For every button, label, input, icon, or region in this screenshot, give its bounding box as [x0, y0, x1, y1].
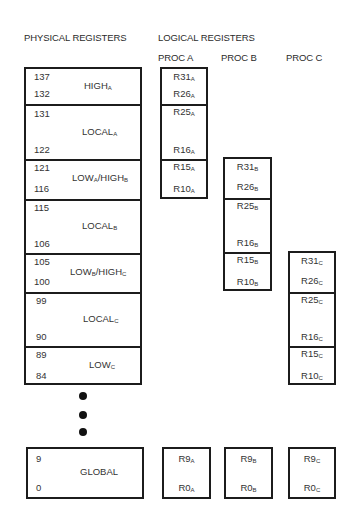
logical-register: R25B	[225, 200, 270, 211]
proc-a-logical-window: R31A R26A R25A R16A R15A R10A	[160, 67, 208, 199]
segment-label: LOWB/HIGHC	[70, 266, 126, 277]
proc-b-low-segment: R15B R10B	[225, 252, 270, 291]
register-number: 89	[36, 349, 47, 360]
segment-label: GLOBAL	[80, 466, 118, 477]
logical-register: R26B	[225, 181, 270, 192]
logical-register: R15A	[162, 161, 206, 172]
register-number: 84	[36, 370, 47, 381]
physical-segment-low-a-high-b: 121 116 LOWA/HIGHB	[26, 159, 140, 199]
physical-segment-local-b: 115 106 LOCALB	[26, 199, 140, 253]
proc-b-high-segment: R31B R26B	[225, 159, 270, 198]
proc-c-global-window: R9C R0C	[288, 447, 336, 499]
register-number: 90	[36, 331, 47, 342]
physical-segment-low-c: 89 84 LOWC	[26, 346, 140, 385]
register-number: 122	[34, 144, 50, 155]
logical-register: R16C	[290, 331, 334, 342]
physical-segment-local-a: 131 122 LOCALA	[26, 104, 140, 159]
logical-register: R31A	[162, 71, 206, 82]
register-number: 100	[34, 276, 50, 287]
proc-c-low-segment: R15C R10C	[290, 346, 334, 385]
proc-a-heading: PROC A	[158, 52, 193, 63]
physical-registers-heading: PHYSICAL REGISTERS	[24, 32, 126, 43]
proc-b-global-window: R9B R0B	[224, 447, 273, 499]
logical-register: R16B	[225, 237, 270, 248]
physical-segment-low-b-high-c: 105 100 LOWB/HIGHC	[26, 253, 140, 292]
logical-register: R25C	[290, 294, 334, 305]
ellipsis-dot	[79, 392, 87, 400]
register-number: 116	[34, 183, 49, 194]
proc-c-local-segment: R25C R16C	[290, 292, 334, 346]
proc-b-logical-window: R31B R26B R25B R16B R15B R10B	[223, 157, 272, 291]
physical-register-file: 137 132 HIGHA 131 122 LOCALA 121 116 LOW…	[24, 67, 142, 385]
proc-a-global-window: R9A R0A	[162, 447, 211, 499]
register-number: 132	[34, 88, 50, 99]
proc-c-high-segment: R31C R26C	[290, 253, 334, 292]
register-number: 137	[34, 71, 50, 82]
ellipsis-dot	[79, 428, 87, 436]
register-number: 115	[34, 202, 49, 213]
logical-register: R31B	[225, 161, 270, 172]
segment-label: LOCALB	[82, 220, 117, 231]
logical-register: R10C	[290, 370, 334, 381]
segment-label: LOCALA	[82, 126, 117, 137]
segment-label: HIGHA	[84, 80, 112, 91]
register-number: 0	[36, 482, 41, 493]
register-number: 106	[34, 238, 50, 249]
proc-a-high-segment: R31A R26A	[162, 69, 206, 104]
proc-a-local-segment: R25A R16A	[162, 104, 206, 159]
proc-b-local-segment: R25B R16B	[225, 198, 270, 252]
logical-register: R26C	[290, 275, 334, 286]
logical-registers-heading: LOGICAL REGISTERS	[158, 32, 255, 43]
physical-segment-global: 9 0 GLOBAL	[26, 447, 144, 499]
physical-segment-local-c: 99 90 LOCALC	[26, 292, 140, 346]
segment-label: LOWA/HIGHB	[72, 172, 128, 183]
logical-register: R16A	[162, 144, 206, 155]
logical-register: R10A	[162, 183, 206, 194]
segment-label: LOCALC	[83, 313, 119, 324]
logical-register: R10B	[225, 276, 270, 287]
segment-label: LOWC	[89, 359, 115, 370]
logical-register: R26A	[162, 88, 206, 99]
logical-register: R9A	[164, 453, 209, 464]
logical-register: R0A	[164, 482, 209, 493]
logical-register: R0C	[290, 482, 334, 493]
register-number: 9	[36, 453, 41, 464]
logical-register: R9C	[290, 453, 334, 464]
logical-register: R9B	[226, 453, 271, 464]
register-number: 131	[34, 108, 50, 119]
logical-register: R0B	[226, 482, 271, 493]
register-number: 105	[34, 256, 50, 267]
logical-register: R15B	[225, 254, 270, 265]
proc-c-logical-window: R31C R26C R25C R16C R15C R10C	[288, 251, 336, 385]
ellipsis-dot	[79, 411, 87, 419]
logical-register: R25A	[162, 106, 206, 117]
proc-a-low-segment: R15A R10A	[162, 159, 206, 199]
register-number: 121	[34, 162, 50, 173]
logical-register: R31C	[290, 255, 334, 266]
proc-c-heading: PROC C	[286, 52, 322, 63]
physical-segment-high-a: 137 132 HIGHA	[26, 69, 140, 104]
logical-register: R15C	[290, 348, 334, 359]
proc-b-heading: PROC B	[221, 52, 257, 63]
register-number: 99	[36, 295, 47, 306]
